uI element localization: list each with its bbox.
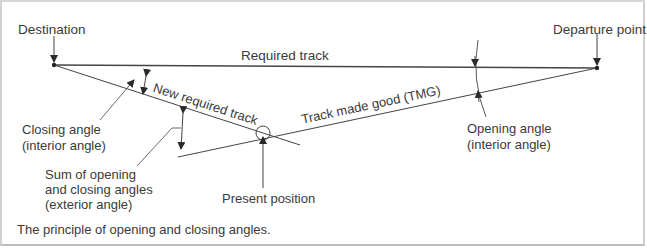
destination-point-icon bbox=[52, 63, 56, 67]
figure-caption: The principle of opening and closing ang… bbox=[17, 222, 271, 237]
destination-label: Destination bbox=[18, 22, 86, 38]
closing-angle-double-arrow-icon bbox=[143, 76, 146, 94]
exterior-angle-label-line1: Sum of opening bbox=[45, 167, 136, 183]
exterior-angle-double-arrow-icon bbox=[181, 113, 183, 149]
closing-angle-label-line1: Closing angle bbox=[22, 122, 101, 138]
required-track-line bbox=[54, 65, 597, 68]
departure-point-icon bbox=[595, 66, 599, 70]
opening-angle-label-line1: Opening angle bbox=[467, 121, 552, 137]
opening-angle-label-line2: (interior angle) bbox=[467, 137, 551, 153]
exterior-angle-leader-icon bbox=[137, 128, 181, 166]
present-position-label: Present position bbox=[222, 191, 315, 207]
required-track-label: Required track bbox=[241, 48, 329, 64]
opening-angle-arc-icon bbox=[476, 40, 486, 117]
exterior-angle-label-line3: (exterior angle) bbox=[45, 197, 132, 213]
closing-angle-label-line2: (interior angle) bbox=[22, 138, 106, 154]
exterior-angle-label-line2: and closing angles bbox=[45, 182, 153, 198]
departure-point-label: Departure point bbox=[553, 22, 646, 38]
